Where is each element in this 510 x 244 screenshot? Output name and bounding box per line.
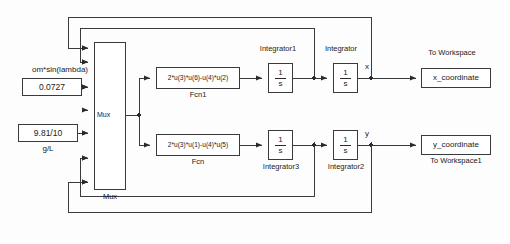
- mux-inside-label: Mux: [97, 111, 110, 118]
- integrator-label: Integrator: [311, 45, 371, 53]
- integrator-block[interactable]: 1 s: [333, 63, 358, 93]
- fcn1-block[interactable]: 2*u(3)*u(6)-u(4)*u(2): [156, 67, 240, 89]
- fcn1-expression: 2*u(3)*u(6)-u(4)*u(2): [168, 75, 228, 82]
- integrator2-label: Integrator2: [316, 163, 376, 171]
- integrator1-transfer-function: 1 s: [275, 69, 286, 88]
- integrator2-numerator: 1: [343, 136, 347, 144]
- integrator3-block[interactable]: 1 s: [268, 130, 293, 160]
- g-over-l-constant-block[interactable]: 9.81/10: [18, 124, 78, 142]
- integrator3-transfer-function: 1 s: [275, 136, 286, 155]
- fcn-block[interactable]: 2*u(3)*u(1)-u(4)*u(5): [156, 134, 240, 156]
- integrator3-numerator: 1: [278, 136, 282, 144]
- x-workspace-block[interactable]: x_coordinate: [421, 68, 491, 88]
- integrator1-block[interactable]: 1 s: [268, 63, 293, 93]
- integrator2-denominator: s: [344, 147, 348, 155]
- y-workspace-variable: y_coordinate: [433, 141, 479, 149]
- integrator3-denominator: s: [279, 147, 283, 155]
- fcn-label: Fcn: [156, 158, 240, 166]
- g-over-l-value: 9.81/10: [34, 129, 62, 138]
- integrator-transfer-function: 1 s: [340, 69, 351, 88]
- g-over-l-caption: g/L: [18, 145, 78, 153]
- x-workspace-variable: x_coordinate: [433, 74, 479, 82]
- y-workspace-block[interactable]: y_coordinate: [421, 135, 491, 155]
- signal-wire-layer: [0, 0, 510, 244]
- integrator1-denominator: s: [279, 80, 283, 88]
- om-sin-lambda-constant-block[interactable]: 0.0727: [22, 78, 82, 96]
- block-diagram-canvas: om*sin(lambda) 0.0727 9.81/10 g/L Mux Mu…: [0, 0, 510, 244]
- signal-label-x: x: [362, 63, 372, 71]
- fcn1-label: Fcn1: [156, 91, 240, 99]
- integrator1-label: Integrator1: [248, 45, 308, 53]
- om-sin-lambda-caption: om*sin(lambda): [16, 66, 104, 74]
- mux-below-label: Mux: [94, 193, 126, 201]
- integrator3-label: Integrator3: [251, 163, 311, 171]
- signal-label-y: y: [362, 130, 372, 138]
- integrator2-transfer-function: 1 s: [340, 136, 351, 155]
- x-workspace-caption: To Workspace: [413, 49, 491, 57]
- om-sin-lambda-value: 0.0727: [39, 83, 65, 92]
- integrator2-block[interactable]: 1 s: [333, 130, 358, 160]
- integrator-denominator: s: [344, 80, 348, 88]
- integrator1-numerator: 1: [278, 69, 282, 77]
- fcn-expression: 2*u(3)*u(1)-u(4)*u(5): [168, 142, 228, 149]
- y-workspace-caption: To Workspace1: [413, 157, 499, 165]
- integrator-numerator: 1: [343, 69, 347, 77]
